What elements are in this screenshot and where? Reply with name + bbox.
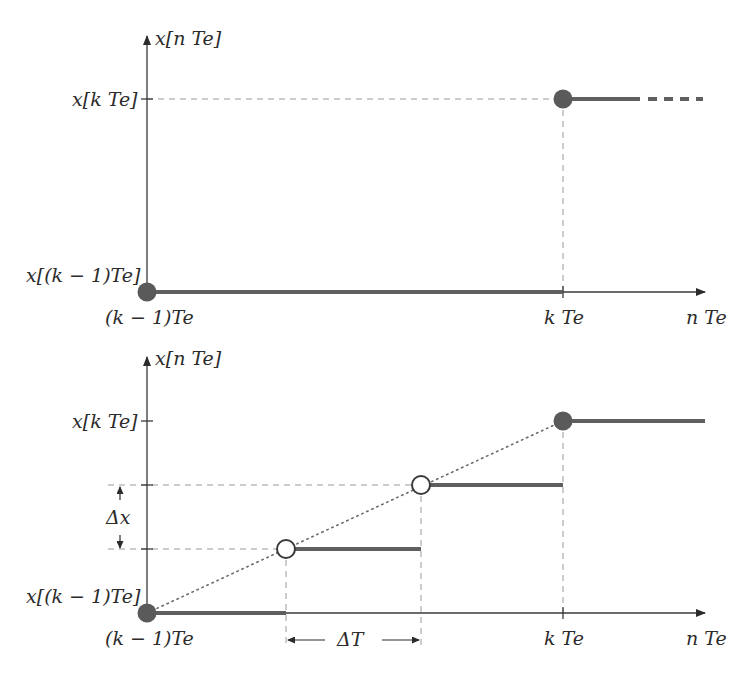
top-plot: x[n Te] x[k Te] x[(k − 1)Te] (k − 1)Te k… (26, 27, 727, 328)
bottom-linear-ramp-dotted (147, 421, 563, 613)
bottom-y-tick-low-label: x[(k − 1)Te] (26, 585, 141, 607)
top-y-axis-label: x[n Te] (155, 27, 222, 49)
bottom-y-axis-label: x[n Te] (155, 347, 222, 369)
bottom-x-axis-label: n Te (686, 627, 727, 649)
bottom-x-tick-k-label: k Te (544, 627, 584, 649)
top-y-tick-high-label: x[k Te] (72, 88, 138, 110)
bottom-sample-dot-k (554, 412, 573, 431)
bottom-interp-circle-1 (277, 540, 295, 558)
bottom-interp-circle-2 (412, 476, 430, 494)
sampling-diagram: x[n Te] x[k Te] x[(k − 1)Te] (k − 1)Te k… (0, 0, 756, 679)
top-sample-dot-k (554, 90, 573, 109)
top-x-tick-start-label: (k − 1)Te (105, 306, 194, 328)
delta-t-label: ΔT (336, 628, 365, 650)
top-x-axis-label: n Te (686, 306, 727, 328)
bottom-x-tick-start-label: (k − 1)Te (105, 627, 194, 649)
bottom-y-tick-high-label: x[k Te] (72, 410, 138, 432)
top-x-tick-k-label: k Te (544, 306, 584, 328)
top-y-tick-low-label: x[(k − 1)Te] (26, 264, 141, 286)
bottom-plot: Δx ΔT x[n Te] x[k Te] x[(k − 1)Te] (k − … (26, 347, 727, 650)
delta-x-label: Δx (105, 506, 131, 528)
